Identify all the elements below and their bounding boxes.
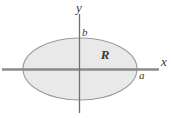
figure-container: y x b a R [0, 0, 171, 118]
region-label: R [100, 47, 110, 62]
semi-minor-axis-label: b [82, 26, 88, 38]
y-axis-label: y [74, 0, 82, 15]
x-axis-label: x [160, 54, 167, 69]
ellipse-region-figure: y x b a R [0, 0, 171, 118]
semi-major-axis-label: a [139, 69, 145, 81]
